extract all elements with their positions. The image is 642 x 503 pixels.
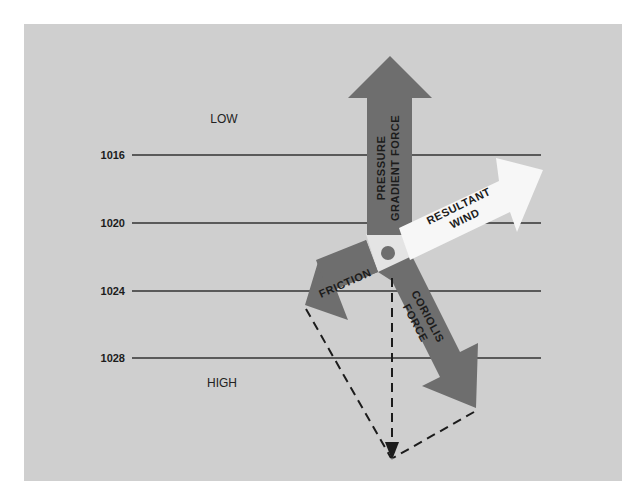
- dashed-line-coriolis-to-sum: [393, 412, 474, 458]
- pressure-gradient-label-line2: GRADIENT FORCE: [389, 115, 401, 221]
- center-dot: [381, 246, 395, 260]
- diagram-canvas: LOW HIGH 1016 1020 1024 1028 PRESSURE GR…: [0, 0, 642, 503]
- isobar-label: 1024: [101, 285, 126, 297]
- isobar-label: 1016: [101, 149, 125, 161]
- pressure-gradient-force-arrow: PRESSURE GRADIENT FORCE: [348, 56, 432, 235]
- pressure-gradient-label-line1: PRESSURE: [375, 136, 387, 201]
- resultant-wind-arrow: RESULTANT WIND: [399, 158, 543, 260]
- friction-arrow: FRICTION: [305, 240, 378, 320]
- dashed-line-friction-to-sum: [306, 309, 391, 458]
- isobar-1016: 1016: [101, 149, 541, 161]
- net-force-arrowhead-icon: [385, 442, 399, 460]
- low-pressure-label: LOW: [210, 112, 238, 126]
- isobar-label: 1020: [101, 217, 125, 229]
- isobar-label: 1028: [101, 352, 125, 364]
- high-pressure-label: HIGH: [207, 376, 237, 390]
- force-balance-diagram: LOW HIGH 1016 1020 1024 1028 PRESSURE GR…: [0, 0, 642, 503]
